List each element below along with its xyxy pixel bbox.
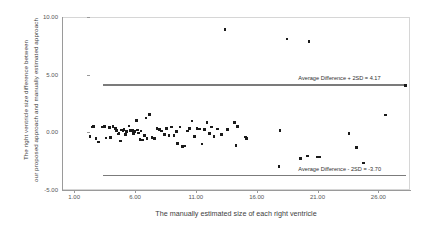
data-point [146, 137, 149, 140]
data-point [141, 139, 144, 142]
data-point [97, 141, 100, 144]
data-point [89, 135, 92, 138]
data-point [306, 155, 309, 158]
data-point [125, 130, 128, 133]
data-point [279, 129, 282, 132]
data-point [175, 130, 178, 133]
bland-altman-chart: The right ventricle size difference betw… [0, 0, 430, 231]
data-point [118, 132, 121, 135]
x-axis-title: The manually estimated size of each righ… [62, 210, 410, 217]
data-points-layer: Average Difference + 2SD = 4.17Average D… [0, 0, 430, 231]
upper-limit-of-agreement-label: Average Difference + 2SD = 4.17 [298, 76, 380, 82]
data-point [119, 140, 122, 143]
data-point [124, 133, 127, 136]
data-point [201, 143, 204, 146]
data-point [176, 142, 179, 145]
data-point [203, 128, 206, 131]
data-point [163, 133, 166, 136]
data-point [92, 125, 95, 128]
data-point [108, 126, 111, 129]
data-point [165, 127, 168, 130]
data-point [245, 137, 248, 140]
data-point [213, 135, 216, 138]
data-point [226, 128, 229, 131]
data-point [216, 128, 219, 131]
data-point [308, 40, 311, 43]
data-point [103, 125, 106, 128]
upper-limit-of-agreement [103, 84, 406, 85]
data-point [384, 114, 387, 117]
data-point [148, 113, 151, 116]
data-point [299, 157, 302, 160]
data-point [318, 156, 321, 159]
data-point [179, 126, 182, 129]
data-point [128, 125, 131, 128]
data-point [198, 128, 201, 131]
data-point [404, 84, 407, 87]
data-point [235, 144, 238, 147]
data-point [355, 146, 358, 149]
data-point [286, 38, 289, 41]
data-point [168, 134, 171, 137]
data-point [224, 28, 227, 31]
data-point [160, 130, 163, 133]
data-point [233, 121, 236, 124]
data-point [348, 132, 351, 135]
data-point [186, 130, 189, 133]
data-point [220, 133, 223, 136]
data-point [191, 120, 194, 123]
data-point [188, 127, 191, 130]
data-point [208, 132, 211, 135]
data-point [193, 135, 196, 138]
data-point [105, 137, 108, 140]
data-point [236, 125, 239, 128]
data-point [184, 145, 187, 148]
data-point [206, 121, 209, 124]
data-point [109, 136, 112, 139]
data-point [145, 117, 148, 120]
lower-limit-of-agreement-label: Average Difference - 2SD = -3.70 [298, 167, 381, 173]
lower-limit-of-agreement [103, 175, 406, 176]
data-point [278, 165, 281, 168]
data-point [170, 126, 173, 129]
data-point [95, 137, 98, 140]
data-point [362, 162, 365, 165]
data-point [210, 126, 213, 129]
data-point [140, 130, 143, 133]
data-point [153, 137, 156, 140]
data-point [135, 119, 138, 122]
data-point [173, 134, 176, 137]
